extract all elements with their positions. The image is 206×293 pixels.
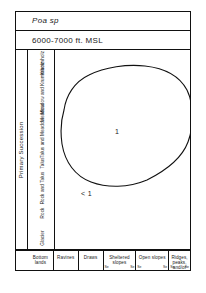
x-axis-subtick: Se [137, 265, 141, 269]
species-title-band: Poa sp [15, 11, 191, 30]
y-axis-tick: Glacier [28, 225, 55, 250]
y-axis-tick: Meadow and Krummholz [28, 75, 55, 100]
species-name: Poa sp [32, 16, 59, 25]
x-axis-cell: Open slopes Se Se [136, 251, 169, 270]
x-axis: Bottom lands Ravines Draws Sheltered slo… [28, 250, 191, 271]
x-axis-tick-label: Draws [79, 255, 103, 260]
elevation-range-label: 6000-7000 ft. MSL [32, 36, 103, 45]
x-axis-tick-label: Bottom lands [28, 255, 53, 265]
y-axis-tick-label: Rock [39, 207, 44, 218]
x-axis-tick-label: Ravines [54, 255, 78, 260]
elevation-band: 6000-7000 ft. MSL [15, 30, 191, 50]
figure-panel: Poa sp 6000-7000 ft. MSL Primary Success… [15, 11, 191, 279]
axis-corner-cell [15, 250, 29, 271]
y-axis-title: Primary Succession [18, 122, 24, 179]
x-axis-subtick: Se [163, 265, 167, 269]
x-axis-cell: Ravines [54, 251, 79, 270]
abundance-label-inner: 1 [115, 128, 119, 135]
x-axis-subtick: Se [170, 265, 174, 269]
y-axis-tick: Rock [28, 200, 55, 225]
x-axis-cell: Draws [79, 251, 104, 270]
y-axis: Primary Succession Krummholz Meadow and … [15, 50, 55, 250]
x-axis-subtick: Se [130, 265, 134, 269]
abundance-label-outer: < 1 [81, 190, 92, 197]
y-axis-title-cell: Primary Succession [15, 50, 28, 250]
x-axis-subtick: Se [105, 265, 109, 269]
y-axis-tick: Talus and Meadow [28, 125, 55, 150]
x-axis-tick-label: Sheltered slopes [104, 255, 136, 265]
y-axis-tick-column: Krummholz Meadow and Krummholz Meadow Ta… [28, 50, 55, 250]
x-axis-subtick: Se [185, 265, 189, 269]
y-axis-tick-label: Rock and Talus [39, 171, 44, 204]
x-axis-cell: Ridges, peaks, and/or flats Se Se [169, 251, 190, 270]
abundance-contour-icon [55, 50, 191, 250]
plot-data-area: 1 < 1 [55, 50, 191, 250]
y-axis-tick-label: Talus [39, 157, 44, 168]
y-axis-tick: Rock and Talus [28, 175, 55, 200]
x-axis-tick-label: Open slopes [136, 255, 168, 260]
x-axis-cell: Sheltered slopes Se Se [104, 251, 137, 270]
x-axis-cell: Bottom lands [28, 251, 54, 270]
y-axis-tick-label: Glacier [39, 230, 44, 245]
